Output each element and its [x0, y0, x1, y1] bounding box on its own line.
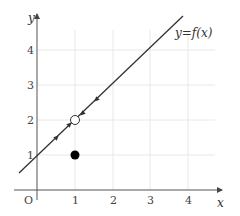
y-axis-label: y — [27, 11, 35, 25]
arrow-icon — [79, 110, 86, 117]
grid — [37, 30, 215, 190]
filled-point — [71, 151, 80, 160]
x-tick-1: 1 — [72, 194, 79, 207]
open-point — [71, 116, 80, 125]
y-tick-3: 3 — [27, 79, 34, 92]
x-tick-2: 2 — [110, 194, 117, 207]
y-tick-2: 2 — [27, 114, 34, 127]
x-tick-4: 4 — [185, 194, 192, 207]
function-label: y=f(x) — [174, 26, 213, 40]
x-tick-3: 3 — [147, 194, 154, 207]
x-axis-label: x — [217, 196, 224, 210]
origin-label: O — [24, 194, 33, 207]
function-line — [19, 16, 183, 173]
chart: y x O 1 2 3 4 1 2 3 4 y=f(x) — [0, 0, 240, 216]
y-tick-4: 4 — [27, 44, 34, 57]
